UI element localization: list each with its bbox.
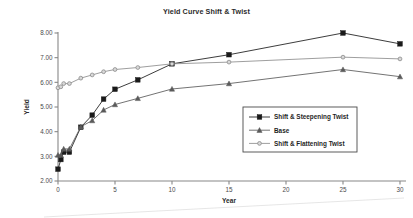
series-marker-square: [113, 87, 118, 92]
x-axis-tick-label: 10: [168, 186, 176, 193]
series-marker-square: [101, 97, 106, 102]
series-marker-circle: [136, 66, 140, 70]
x-axis-tick-label: 5: [113, 186, 117, 193]
y-axis-tick-label: 6.00: [40, 79, 53, 86]
series-marker-circle: [79, 76, 83, 80]
series-marker-circle: [341, 55, 345, 59]
series-marker-square: [56, 167, 61, 172]
x-axis-tick-label: 25: [339, 186, 347, 193]
series-marker-circle: [398, 57, 402, 61]
series-marker-circle: [170, 62, 174, 66]
series-marker-square: [341, 31, 346, 36]
x-axis-title: Year: [222, 197, 236, 204]
legend-marker-circle: [258, 142, 262, 146]
series-marker-circle: [59, 85, 63, 89]
series-marker-square: [398, 42, 403, 47]
legend-entry-label-1: Base: [274, 127, 290, 134]
y-axis-tick-label: 3.00: [40, 153, 53, 160]
legend-marker-square: [257, 115, 262, 120]
chart-plot-area: 2.003.004.005.006.007.008.00051015202530…: [0, 0, 413, 218]
series-marker-square: [59, 157, 64, 162]
legend-entry-label-2: Shift & Flattening Twist: [274, 140, 345, 148]
series-marker-circle: [68, 82, 72, 86]
x-axis-tick-label: 15: [225, 186, 233, 193]
legend-entry-label-0: Shift & Steepening Twist: [274, 113, 349, 121]
series-marker-square: [90, 113, 95, 118]
series-marker-circle: [62, 82, 66, 86]
y-axis-tick-label: 8.00: [40, 29, 53, 36]
series-marker-circle: [90, 73, 94, 77]
series-marker-triangle: [101, 107, 106, 112]
y-axis-tick-label: 4.00: [40, 128, 53, 135]
yield-curve-chart: Yield Curve Shift & Twist 2.003.004.005.…: [0, 0, 413, 218]
x-axis-tick-label: 30: [396, 186, 404, 193]
series-marker-square: [136, 78, 141, 83]
series-marker-circle: [227, 60, 231, 64]
series-marker-square: [227, 52, 232, 57]
x-axis-tick-label: 20: [282, 186, 290, 193]
x-axis-tick-label: 0: [56, 186, 60, 193]
y-axis-tick-label: 7.00: [40, 54, 53, 61]
y-axis-tick-label: 5.00: [40, 103, 53, 110]
y-axis-tick-label: 2.00: [40, 177, 53, 184]
series-marker-circle: [113, 68, 117, 72]
series-marker-circle: [102, 70, 106, 74]
y-axis-title: Yield: [23, 99, 30, 115]
